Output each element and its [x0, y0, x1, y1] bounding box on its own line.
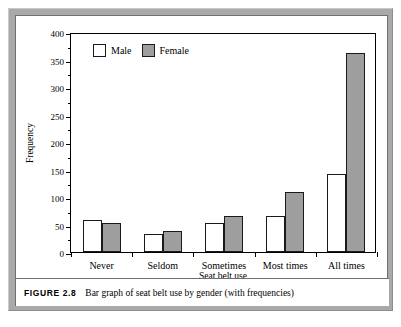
x-tick-boundary-4	[316, 252, 317, 257]
legend-label-male: Male	[111, 45, 132, 56]
bar-never-male	[83, 220, 102, 252]
legend-entry-female: Female	[142, 44, 189, 57]
y-tick-label-150: 150	[51, 167, 65, 176]
legend-swatch-male	[93, 44, 106, 57]
figure-container: Frequency Seat belt use 0501001502002503…	[0, 0, 401, 327]
x-tick-label-most-times: Most times	[263, 260, 308, 271]
y-tick-50	[66, 227, 71, 228]
y-tick-400	[66, 34, 71, 35]
x-tick-boundary-0	[71, 252, 72, 257]
y-tick-minor-175	[68, 158, 71, 159]
legend-entry-male: Male	[93, 44, 132, 57]
y-tick-minor-25	[68, 240, 71, 241]
chart-legend: Male Female	[93, 44, 189, 57]
figure-number: FIGURE 2.8	[24, 288, 76, 298]
y-tick-label-400: 400	[51, 30, 65, 39]
x-tick-boundary-1	[132, 252, 133, 257]
y-tick-minor-225	[68, 130, 71, 131]
y-tick-label-350: 350	[51, 57, 65, 66]
x-tick-boundary-2	[193, 252, 194, 257]
figure-caption-text: Bar graph of seat belt use by gender (wi…	[85, 288, 294, 298]
y-tick-label-100: 100	[51, 195, 65, 204]
y-tick-minor-75	[68, 213, 71, 214]
bar-seldom-female	[163, 231, 182, 252]
y-tick-200	[66, 144, 71, 145]
figure-outer-frame: Frequency Seat belt use 0501001502002503…	[8, 8, 393, 311]
y-tick-label-250: 250	[51, 112, 65, 121]
bar-seldom-male	[144, 234, 163, 252]
y-tick-minor-275	[68, 103, 71, 104]
figure-inner-panel: Frequency Seat belt use 0501001502002503…	[15, 15, 388, 306]
legend-label-female: Female	[160, 45, 189, 56]
bar-most-times-female	[285, 192, 304, 252]
y-tick-100	[66, 199, 71, 200]
y-tick-label-300: 300	[51, 85, 65, 94]
plot-area: 050100150200250300350400 NeverSeldomSome…	[70, 33, 376, 253]
bar-most-times-male	[266, 216, 285, 252]
x-tick-label-sometimes: Sometimes	[202, 260, 246, 271]
bar-sometimes-male	[205, 223, 224, 252]
y-tick-350	[66, 62, 71, 63]
y-tick-minor-125	[68, 185, 71, 186]
bar-all-times-female	[346, 53, 365, 252]
y-tick-label-200: 200	[51, 140, 65, 149]
bar-never-female	[102, 223, 121, 252]
x-tick-label-never: Never	[89, 260, 113, 271]
y-tick-150	[66, 172, 71, 173]
y-tick-minor-375	[68, 48, 71, 49]
figure-caption: FIGURE 2.8 Bar graph of seat belt use by…	[16, 279, 389, 306]
x-tick-label-all-times: All times	[328, 260, 365, 271]
y-tick-300	[66, 89, 71, 90]
x-tick-boundary-3	[255, 252, 256, 257]
legend-swatch-female	[142, 44, 155, 57]
x-tick-boundary-5	[377, 252, 378, 257]
y-axis-title: Frequency	[25, 123, 35, 163]
y-tick-label-0: 0	[60, 250, 65, 259]
bar-sometimes-female	[224, 216, 243, 252]
chart-area: Frequency Seat belt use 0501001502002503…	[16, 16, 389, 278]
x-tick-label-seldom: Seldom	[148, 260, 179, 271]
y-tick-250	[66, 117, 71, 118]
y-tick-minor-325	[68, 75, 71, 76]
y-tick-label-50: 50	[55, 222, 64, 231]
bar-all-times-male	[327, 174, 346, 252]
